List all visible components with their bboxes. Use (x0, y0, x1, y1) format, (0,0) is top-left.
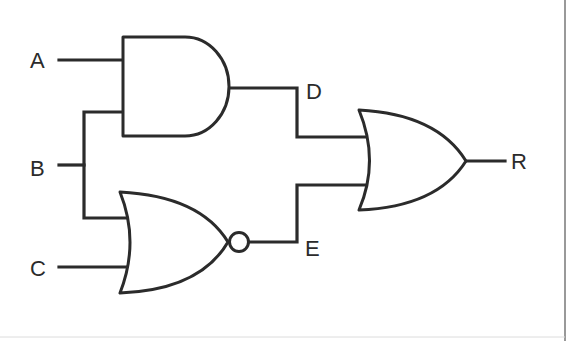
input-label-c: C (30, 256, 46, 281)
node-label-d: D (306, 79, 322, 104)
and-gate-icon (123, 37, 229, 136)
output-label-r: R (511, 149, 527, 174)
input-label-b: B (30, 156, 45, 181)
node-label-e: E (305, 236, 320, 261)
nor-gate (120, 192, 249, 293)
wire-b-bus (84, 112, 126, 218)
nor-inverter-bubble-icon (230, 233, 249, 252)
wire-d (229, 88, 368, 137)
input-label-a: A (30, 48, 45, 73)
nor-gate-icon (120, 192, 228, 293)
wire-e (249, 185, 368, 242)
or-gate-icon (359, 110, 466, 210)
logic-circuit-diagram: A B C D E R (0, 0, 578, 341)
